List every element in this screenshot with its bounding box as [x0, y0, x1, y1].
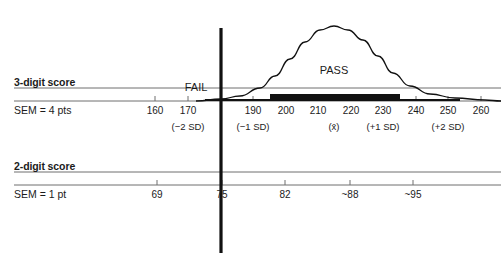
- distribution-range-bar-thick: [270, 94, 400, 101]
- axis-tick-label: 69: [151, 189, 162, 200]
- axis-tick-label: 190: [245, 105, 262, 116]
- standard-deviation-label: (+1 SD): [367, 121, 400, 132]
- two-digit-sem-label: SEM = 1 pt: [14, 188, 66, 200]
- axis-tick-label: 250: [440, 105, 457, 116]
- zone-label-pass: PASS: [320, 64, 349, 76]
- axis-tick-label: ~95: [405, 189, 422, 200]
- axis-tick-label: 210: [310, 105, 327, 116]
- two-digit-tick-marks: [157, 180, 413, 185]
- axis-tick-label: 75: [216, 189, 227, 200]
- axis-tick-label: ~88: [342, 189, 359, 200]
- score-scale-figure: 3-digit score SEM = 4 pts 2-digit score …: [0, 0, 501, 267]
- axis-tick-label: 240: [408, 105, 425, 116]
- axis-tick-label: 220: [343, 105, 360, 116]
- two-digit-score-title: 2-digit score: [14, 160, 75, 172]
- axis-tick-label: 82: [279, 189, 290, 200]
- axis-tick-label: 160: [147, 105, 164, 116]
- standard-deviation-label: (−1 SD): [237, 121, 270, 132]
- figure-graphics: [0, 0, 501, 267]
- three-digit-sem-label: SEM = 4 pts: [14, 104, 71, 116]
- standard-deviation-label: (−2 SD): [172, 121, 205, 132]
- standard-deviation-label: (+2 SD): [432, 121, 465, 132]
- axis-tick-label: 170: [180, 105, 197, 116]
- standard-deviation-label: (x̄): [328, 121, 339, 132]
- score-distribution-curve: [196, 26, 501, 101]
- zone-label-fail: FAIL: [185, 81, 208, 93]
- axis-tick-label: 260: [473, 105, 490, 116]
- axis-tick-label: 200: [278, 105, 295, 116]
- three-digit-score-title: 3-digit score: [14, 76, 75, 88]
- axis-tick-label: 230: [375, 105, 392, 116]
